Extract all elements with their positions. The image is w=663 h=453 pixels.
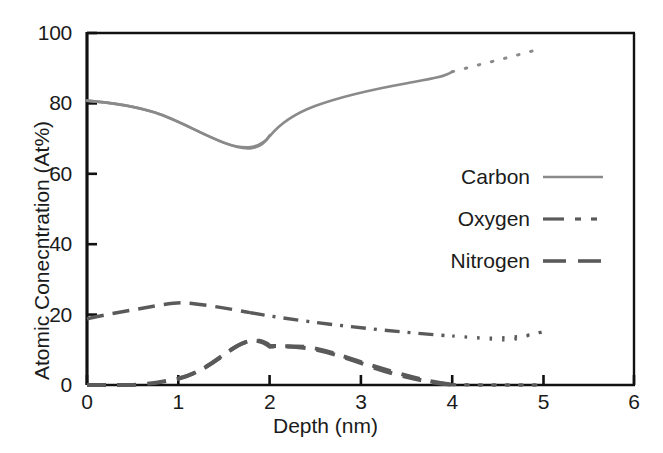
legend-swatch-oxygen-dash-dot xyxy=(542,213,604,225)
oxygen-line-dotted-tail xyxy=(452,332,543,341)
x-tick-label-2: 2 xyxy=(264,390,275,414)
legend-label-carbon: Carbon xyxy=(426,165,542,189)
legend-swatch-carbon-solid xyxy=(542,171,604,183)
legend-entry-oxygen: Oxygen xyxy=(426,207,604,231)
nitrogen-line-solid-seg xyxy=(178,340,452,384)
oxygen-line-dashed xyxy=(87,303,250,319)
x-axis-title: Depth (nm) xyxy=(0,414,663,438)
legend-entry-nitrogen: Nitrogen xyxy=(426,249,604,273)
legend-label-nitrogen: Nitrogen xyxy=(426,249,542,273)
series-carbon xyxy=(87,48,544,149)
carbon-line-solid xyxy=(87,101,270,149)
x-tick-label-3: 3 xyxy=(355,390,366,414)
series-oxygen xyxy=(87,303,544,341)
x-axis-ticks xyxy=(87,375,634,385)
x-tick-label-4: 4 xyxy=(446,390,457,414)
carbon-line-solid-b xyxy=(87,72,452,148)
x-axis-title-text: Depth (nm) xyxy=(273,414,378,438)
legend-label-oxygen: Oxygen xyxy=(426,207,542,231)
x-tick-label-0: 0 xyxy=(81,390,92,414)
carbon-line-dotted-tail xyxy=(452,48,543,72)
oxygen-line-dash-dot xyxy=(250,313,452,336)
x-tick-label-5: 5 xyxy=(538,390,549,414)
x-tick-label-1: 1 xyxy=(173,390,184,414)
x-tick-label-6: 6 xyxy=(628,390,639,414)
y-tick-label-80: 80 xyxy=(10,91,72,115)
y-axis-title: Atomic Conecntration (At%) xyxy=(30,121,54,380)
series-nitrogen xyxy=(87,340,544,385)
y-tick-label-100: 100 xyxy=(10,21,72,45)
legend-entry-carbon: Carbon xyxy=(426,165,604,189)
legend-swatch-nitrogen-dashed xyxy=(542,255,604,267)
chart-figure: 100 80 60 40 20 0 0 1 2 3 4 5 6 Depth (n… xyxy=(0,0,663,453)
